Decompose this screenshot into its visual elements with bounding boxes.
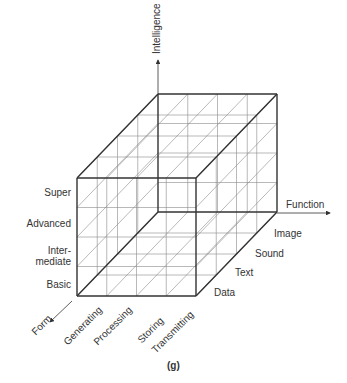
intelligence-level-super: Super [20,188,71,198]
intelligence-level-intermediate: Inter- mediate [10,245,71,267]
figure-caption: (g) [167,361,180,371]
form-axis-arrow [50,301,72,322]
function-level-text: Text [235,268,253,278]
function-level-data: Data [214,288,235,298]
intelligence-level-advanced: Advanced [10,219,71,229]
function-level-sound: Sound [255,249,284,259]
function-axis-label: Function [286,200,324,210]
intelligence-axis-label: Intelligence [152,3,162,54]
function-level-image: Image [274,229,302,239]
intelligence-level-basic: Basic [10,280,71,290]
